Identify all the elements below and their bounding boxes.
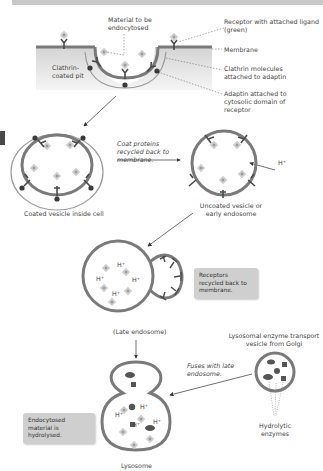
label-uncoated-vesicle: Uncoated vesicle or early endosome [196,202,266,218]
label-clathrin-pit: Clathrin-coated pit [52,64,88,80]
label-h-plus-2: H⁺ [117,261,125,269]
label-h-plus-4: H⁺ [132,276,140,284]
uncoated-vesicle [189,131,256,198]
label-membrane: Membrane [224,46,258,54]
label-h-plus-3: H⁺ [96,275,104,283]
label-material: Material to be endocytosed [108,16,158,32]
label-h-plus-1: H⁺ [278,159,286,167]
label-adaptin: Adaptin attached to cytosolic domain of … [224,90,302,114]
label-coated-vesicle: Coated vesicle inside cell [24,210,104,218]
lysosome [102,362,170,450]
label-h-plus-8: H⁺ [132,421,140,429]
note-receptors-recycled: Receptors recycled back to membrane. [194,268,258,299]
label-clathrin-molecules: Clathrin molecules attached to adaptin [224,65,294,81]
label-transport-vesicle: Lysosomal enzyme transport vesicle from … [226,332,322,348]
label-coat-recycled: Coat proteins recycled back to membrane. [117,140,185,164]
label-h-plus-9: H⁺ [153,418,161,426]
label-fuses: Fuses with late endosome. [187,362,237,378]
label-late-endosome: (Late endosome) [113,328,166,336]
label-h-plus-7: H⁺ [140,403,148,411]
label-h-plus-5: H⁺ [112,290,120,298]
transport-vesicle [256,353,294,416]
label-h-plus-6: H⁺ [115,411,123,419]
label-hydrolytic-enzymes: Hydrolytic enzymes [252,422,298,438]
coated-vesicle [11,134,103,210]
label-receptor: Receptor with attached ligand (green) [224,18,319,34]
label-lysosome: Lysosome [121,462,152,470]
note-hydrolysed: Endocytosed material is hydrolysed. [23,413,95,444]
